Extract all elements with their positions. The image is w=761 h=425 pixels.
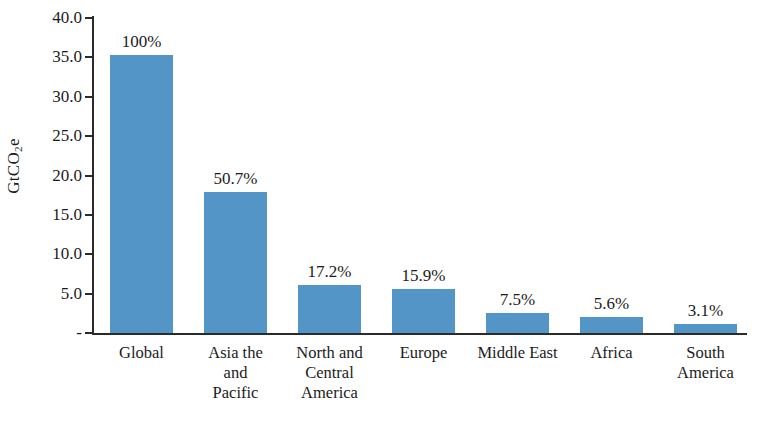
x-axis-category-label-line: North and	[283, 343, 376, 363]
bar	[674, 324, 737, 333]
bar-value-label: 15.9%	[374, 267, 473, 285]
x-axis-category-label-line: Asia the	[189, 343, 282, 363]
bar	[110, 55, 173, 333]
bar	[204, 192, 267, 333]
x-axis-category-label-line: Middle East	[471, 343, 564, 363]
bar-value-label: 5.6%	[562, 295, 661, 313]
x-axis-category-label: Global	[95, 343, 188, 363]
bar	[486, 313, 549, 333]
x-axis-category-label: Middle East	[471, 343, 564, 363]
x-axis-category-label-line: South	[659, 343, 752, 363]
bar-value-label: 3.1%	[656, 302, 755, 320]
x-axis-category-label-line: and	[189, 363, 282, 383]
bar	[580, 317, 643, 333]
x-axis-category-label: Africa	[565, 343, 658, 363]
x-axis-category-label-line: Global	[95, 343, 188, 363]
bar	[298, 285, 361, 333]
x-axis-category-label: Asia theandPacific	[189, 343, 282, 403]
bar-value-label: 100%	[92, 33, 191, 51]
bar-value-label: 7.5%	[468, 291, 567, 309]
x-axis-category-label: SouthAmerica	[659, 343, 752, 383]
bar-value-label: 50.7%	[186, 170, 285, 188]
x-axis-category-label-line: Europe	[377, 343, 470, 363]
x-axis-category-label: North andCentralAmerica	[283, 343, 376, 403]
x-axis-category-label-line: America	[659, 363, 752, 383]
bar-value-label: 17.2%	[280, 263, 379, 281]
x-axis-category-label-line: Central	[283, 363, 376, 383]
x-axis-category-label-line: Pacific	[189, 383, 282, 403]
x-axis-category-label: Europe	[377, 343, 470, 363]
bar-chart: GtCO2e 40.035.030.025.020.015.010.05.0- …	[0, 0, 761, 425]
x-axis-category-label-line: America	[283, 383, 376, 403]
x-axis-category-label-line: Africa	[565, 343, 658, 363]
bar	[392, 289, 455, 333]
